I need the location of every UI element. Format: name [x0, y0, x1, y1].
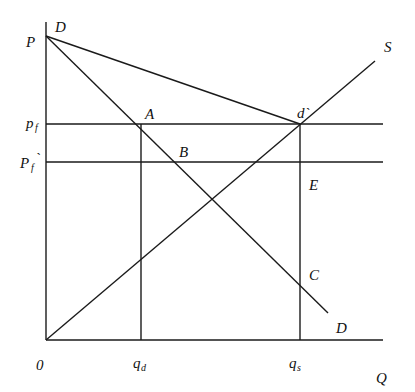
- demand-bottom-label: D: [335, 320, 347, 336]
- qs-label: q s: [289, 355, 301, 373]
- pf-label: p f: [25, 115, 39, 133]
- demand-top-label: D: [54, 19, 66, 35]
- svg-text:p: p: [25, 115, 34, 131]
- svg-text:q: q: [133, 355, 141, 371]
- supply-demand-diagram: P Q 0 p f P f ` q d q s D D S A B d` E C: [0, 0, 415, 392]
- pf-prime-label: P f `: [19, 150, 40, 173]
- point-e-label: E: [308, 177, 318, 193]
- origin-label: 0: [36, 357, 44, 373]
- point-d-prime-label: d`: [297, 105, 310, 121]
- point-c-label: C: [309, 267, 320, 283]
- qd-label: q d: [133, 355, 147, 373]
- svg-text:d: d: [141, 362, 147, 373]
- svg-text:f: f: [35, 122, 39, 133]
- p-to-d-prime-line: [46, 36, 300, 124]
- point-a-label: A: [144, 106, 155, 122]
- supply-curve: [46, 61, 375, 340]
- x-axis-label: Q: [376, 370, 387, 386]
- svg-text:s: s: [297, 362, 301, 373]
- point-b-label: B: [179, 144, 188, 160]
- supply-label: S: [384, 39, 392, 55]
- y-axis-label: P: [25, 34, 35, 50]
- demand-curve: [46, 36, 328, 313]
- svg-text:`: `: [35, 150, 40, 166]
- svg-text:q: q: [289, 355, 297, 371]
- svg-text:P: P: [19, 155, 29, 171]
